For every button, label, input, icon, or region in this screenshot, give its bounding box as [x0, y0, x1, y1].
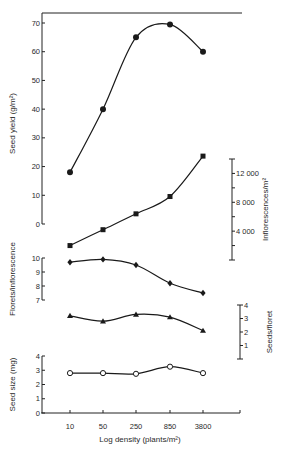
y-tick-label: 70 — [32, 19, 40, 28]
florets-axis-title: Florets/inflorescence — [8, 242, 17, 316]
filled-square-marker-icon — [201, 154, 206, 159]
panel-florets: 78910Florets/inflorescence — [8, 242, 206, 316]
seeds-per-floret-curve — [70, 314, 203, 330]
panel-seeds-per-floret: 1234Seeds/floret — [67, 301, 274, 359]
y-tick-label: 3 — [36, 366, 40, 375]
x-tick-label: 250 — [130, 422, 143, 431]
filled-circle-marker-icon — [200, 49, 206, 55]
x-tick-label: 50 — [99, 422, 107, 431]
seed-yield-curve — [70, 23, 203, 172]
filled-diamond-marker-icon — [167, 280, 172, 286]
seed-yield-axis-title: Seed yield (g/m²) — [8, 93, 17, 154]
y-tick-label: 50 — [32, 76, 40, 85]
seed-size-axis-title: Seed size (mg) — [8, 357, 17, 411]
inflorescences-axis-title: Inflorescences/m² — [261, 178, 270, 241]
filled-diamond-marker-icon — [67, 259, 72, 265]
y-tick-label: 10 — [32, 191, 40, 200]
y-tick-label: 1 — [36, 394, 40, 403]
chart-canvas: 010203040506070Seed yield (g/m²)4 0008 0… — [0, 0, 294, 452]
y-tick-label: 20 — [32, 162, 40, 171]
y-tick-label: 7 — [36, 296, 40, 305]
x-axis-title: Log density (plants/m²) — [99, 435, 181, 444]
seeds-per-floret-axis-title: Seeds/floret — [265, 310, 274, 353]
x-tick-label: 850 — [164, 422, 177, 431]
y-tick-label: 8 000 — [236, 198, 255, 207]
panel-seed-size: 01234Seed size (mg) — [8, 352, 206, 418]
filled-square-marker-icon — [168, 194, 173, 199]
panel-seed-yield: 010203040506070Seed yield (g/m²) — [8, 13, 206, 229]
y-tick-label: 4 000 — [236, 227, 255, 236]
x-tick-label: 3800 — [195, 422, 212, 431]
filled-square-marker-icon — [101, 227, 106, 232]
y-tick-label: 30 — [32, 133, 40, 142]
y-tick-label: 4 — [36, 352, 40, 361]
open-circle-marker-icon — [200, 371, 205, 376]
chart-panels: 010203040506070Seed yield (g/m²)4 0008 0… — [8, 13, 274, 418]
y-tick-label: 1 — [244, 341, 248, 350]
filled-diamond-marker-icon — [100, 256, 105, 262]
open-circle-marker-icon — [167, 364, 172, 369]
filled-diamond-marker-icon — [200, 290, 205, 296]
open-circle-marker-icon — [133, 371, 138, 376]
filled-triangle-marker-icon — [67, 313, 73, 318]
filled-circle-marker-icon — [100, 106, 106, 112]
inflorescences-curve — [70, 156, 203, 245]
filled-square-marker-icon — [134, 211, 139, 216]
y-tick-label: 0 — [36, 409, 40, 418]
panel-inflorescences: 4 0008 00012 000Inflorescences/m² — [68, 154, 271, 260]
y-tick-label: 2 — [36, 380, 40, 389]
filled-square-marker-icon — [68, 243, 73, 248]
filled-circle-marker-icon — [133, 34, 139, 40]
open-circle-marker-icon — [67, 371, 72, 376]
filled-circle-marker-icon — [167, 21, 173, 27]
filled-circle-marker-icon — [67, 169, 73, 175]
y-tick-label: 3 — [244, 314, 248, 323]
x-axis: 10502508503800 — [41, 410, 240, 431]
y-tick-label: 10 — [32, 254, 40, 263]
y-tick-label: 8 — [36, 282, 40, 291]
y-tick-label: 0 — [36, 220, 40, 229]
y-tick-label: 60 — [32, 47, 40, 56]
x-tick-label: 10 — [66, 422, 74, 431]
filled-diamond-marker-icon — [133, 262, 138, 268]
y-tick-label: 9 — [36, 268, 40, 277]
y-tick-label: 4 — [244, 301, 248, 310]
open-circle-marker-icon — [100, 371, 105, 376]
y-tick-label: 12 000 — [236, 169, 259, 178]
y-tick-label: 40 — [32, 105, 40, 114]
y-tick-label: 2 — [244, 328, 248, 337]
